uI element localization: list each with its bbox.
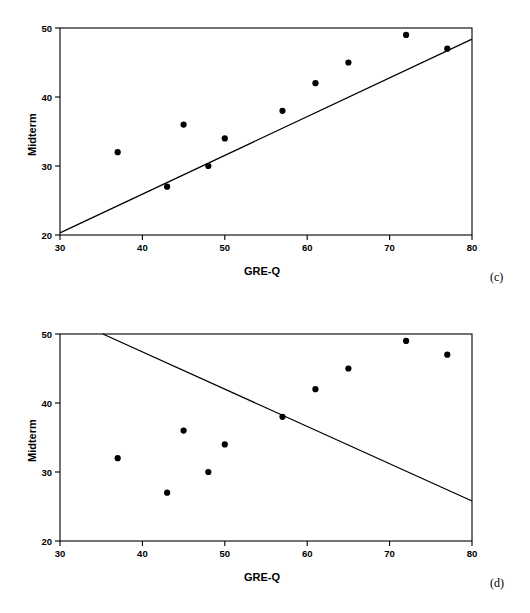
x-axis-tick-label: 80	[467, 242, 478, 253]
y-axis-tick-label: 40	[41, 92, 52, 103]
x-axis-tick-label: 70	[384, 548, 395, 559]
data-point	[222, 135, 228, 141]
y-axis-tick-label: 50	[41, 23, 52, 34]
scatter-plot-c: 30405060708020304050	[0, 0, 530, 306]
data-point	[181, 122, 187, 128]
data-point	[164, 490, 170, 496]
y-axis-tick-label: 50	[41, 329, 52, 340]
data-point	[222, 441, 228, 447]
panel-label-c: (c)	[490, 270, 503, 285]
y-axis-tick-label: 30	[41, 467, 52, 478]
x-axis-tick-label: 60	[302, 548, 313, 559]
x-axis-tick-label: 80	[467, 548, 478, 559]
data-point	[444, 352, 450, 358]
x-axis-title-d: GRE-Q	[244, 571, 280, 583]
y-axis-title-c: Midterm	[26, 113, 38, 156]
data-point	[403, 32, 409, 38]
data-point	[345, 59, 351, 65]
data-point	[115, 149, 121, 155]
x-axis-tick-label: 30	[55, 548, 66, 559]
data-point	[115, 455, 121, 461]
y-axis-tick-label: 30	[41, 161, 52, 172]
y-axis-tick-label: 40	[41, 398, 52, 409]
regression-line	[103, 334, 472, 501]
plot-area-c: 30405060708020304050 Midterm GRE-Q (c)	[0, 0, 530, 306]
data-point	[279, 108, 285, 114]
figure-panel-d: 30405060708020304050 Midterm GRE-Q (d)	[0, 306, 530, 613]
figure-panel-c: 30405060708020304050 Midterm GRE-Q (c)	[0, 0, 530, 306]
data-point	[205, 469, 211, 475]
plot-area-d: 30405060708020304050 Midterm GRE-Q (d)	[0, 306, 530, 612]
x-axis-tick-label: 40	[137, 242, 148, 253]
x-axis-tick-label: 70	[384, 242, 395, 253]
data-point	[164, 184, 170, 190]
x-axis-tick-label: 30	[55, 242, 66, 253]
regression-line	[60, 39, 472, 233]
data-point	[205, 163, 211, 169]
data-point	[312, 80, 318, 86]
data-point	[312, 386, 318, 392]
data-point	[345, 365, 351, 371]
plot-frame	[60, 334, 472, 541]
x-axis-tick-label: 40	[137, 548, 148, 559]
data-point	[403, 338, 409, 344]
data-point	[444, 46, 450, 52]
y-axis-tick-label: 20	[41, 536, 52, 547]
y-axis-title-d: Midterm	[26, 419, 38, 462]
scatter-plot-d: 30405060708020304050	[0, 306, 530, 613]
data-point	[181, 428, 187, 434]
panel-label-d: (d)	[490, 576, 504, 591]
x-axis-title-c: GRE-Q	[244, 265, 280, 277]
x-axis-tick-label: 50	[220, 548, 231, 559]
data-point	[279, 414, 285, 420]
x-axis-tick-label: 50	[220, 242, 231, 253]
y-axis-tick-label: 20	[41, 230, 52, 241]
x-axis-tick-label: 60	[302, 242, 313, 253]
